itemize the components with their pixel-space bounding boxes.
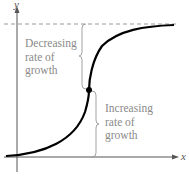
x-axis-label: x xyxy=(181,150,186,162)
upper-brace xyxy=(79,24,86,89)
inflection-point xyxy=(86,87,92,93)
x-axis-arrow-icon xyxy=(172,155,179,160)
logistic-curve-diagram xyxy=(0,0,189,177)
lower-brace xyxy=(92,91,99,157)
decreasing-growth-label: Decreasing rate of growth xyxy=(25,37,77,78)
y-axis-label: y xyxy=(14,0,19,10)
increasing-growth-label: Increasing rate of growth xyxy=(105,102,153,143)
